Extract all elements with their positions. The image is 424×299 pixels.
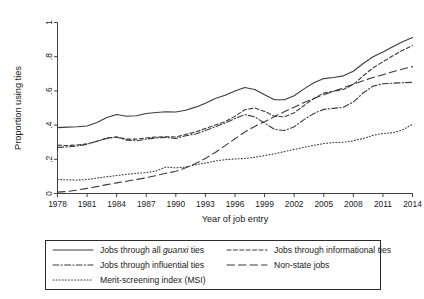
y-tick-label: 0 [44, 191, 54, 196]
x-axis-title: Year of job entry [202, 214, 269, 224]
x-tick-label: 1981 [78, 199, 97, 209]
legend-label-msi: Merit-screening index (MSI) [100, 276, 206, 285]
x-tick-label: 2005 [314, 199, 333, 209]
legend-label-informational-ties: Jobs through informational ties [274, 246, 391, 255]
legend-label-influential-ties: Jobs through influential ties [100, 261, 204, 270]
series-line [58, 124, 413, 180]
x-tick-label: 2014 [403, 199, 422, 209]
legend-item-informational-ties[interactable]: Jobs through informational ties [226, 245, 391, 255]
data-series-group [58, 38, 413, 193]
y-tick-label: .4 [44, 121, 54, 128]
x-tick-label: 2008 [344, 199, 363, 209]
legend-item-non-state-jobs[interactable]: Non-state jobs [226, 260, 329, 270]
x-tick-label: 1990 [167, 199, 186, 209]
series-line [58, 67, 413, 193]
y-axis-ticks: 0.2.4.6.81 [44, 20, 58, 196]
y-tick-label: 1 [44, 20, 54, 25]
y-axis-title: Proportion using ties [13, 66, 23, 150]
y-tick-label: .6 [44, 87, 54, 94]
x-tick-label: 2002 [285, 199, 304, 209]
x-tick-label: 1984 [107, 199, 126, 209]
legend-item-all-guanxi-ties[interactable]: Jobs through all guanxi ties [52, 245, 204, 255]
x-tick-label: 1996 [226, 199, 245, 209]
series-line [58, 82, 413, 147]
y-tick-label: .2 [44, 155, 54, 162]
chart-legend: Jobs through all guanxi ties Jobs throug… [45, 240, 381, 290]
legend-swatch-dotted [52, 275, 94, 285]
legend-label-all-guanxi-ties: Jobs through all guanxi ties [100, 246, 204, 255]
x-tick-label: 2011 [374, 199, 392, 209]
legend-swatch-solid [52, 245, 94, 255]
legend-item-influential-ties[interactable]: Jobs through influential ties [52, 260, 204, 270]
line-chart-svg: 0.2.4.6.81 19781981198419871990199319961… [0, 0, 424, 232]
x-tick-label: 1993 [196, 199, 215, 209]
figure-container: 0.2.4.6.81 19781981198419871990199319961… [0, 0, 424, 299]
legend-item-msi[interactable]: Merit-screening index (MSI) [52, 275, 206, 285]
legend-swatch-dashdot [52, 260, 94, 270]
x-tick-label: 1987 [137, 199, 156, 209]
y-tick-label: .8 [44, 53, 54, 60]
x-tick-label: 1999 [255, 199, 274, 209]
plot-area: 0.2.4.6.81 19781981198419871990199319961… [0, 0, 424, 232]
legend-swatch-dashed-short [226, 245, 268, 255]
x-axis-ticks: 1978198119841987199019931996199920022005… [48, 194, 422, 210]
legend-grid: Jobs through all guanxi ties Jobs throug… [46, 241, 380, 289]
legend-label-non-state-jobs: Non-state jobs [274, 261, 329, 270]
x-tick-label: 1978 [48, 199, 67, 209]
legend-swatch-dashed-long [226, 260, 268, 270]
series-line [58, 46, 413, 146]
